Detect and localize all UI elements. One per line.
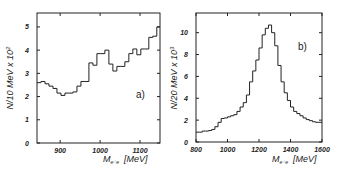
figure: 90010001100012345 a) N/10 MeV x 102 Me⁺e…: [0, 0, 339, 172]
y-axis-title-a: N/10 MeV x 102: [5, 46, 15, 110]
y-tick-label: 0: [25, 140, 29, 147]
plot-frame-b: [196, 13, 322, 142]
y-tick-label: 2: [24, 93, 29, 100]
x-tick-label: 1000: [92, 147, 108, 154]
y-tick-label: 4: [24, 47, 29, 54]
x-tick-label: 1400: [283, 146, 299, 153]
x-tick-label: 900: [54, 147, 66, 154]
panel-label-a: a): [136, 89, 145, 100]
y-tick-label: 10: [180, 29, 188, 36]
plot-frame-a: [37, 13, 160, 143]
x-tick-label: 1200: [251, 146, 267, 153]
x-tick-label: 1600: [314, 146, 330, 153]
x-tick-label: 1000: [220, 146, 236, 153]
y-tick-label: 8: [184, 51, 188, 58]
y-tick-label: 4: [183, 95, 188, 102]
x-tick-label: 1100: [133, 147, 148, 154]
y-tick-label: 5: [25, 23, 29, 30]
x-axis-title-b: Me⁺e⁻[MeV]: [272, 154, 317, 165]
axis-ticks-a: 90010001100012345: [24, 13, 160, 154]
y-tick-label: 0: [184, 139, 188, 146]
y-tick-label: 3: [25, 70, 29, 77]
x-tick-label: 800: [190, 146, 202, 153]
y-tick-label: 1: [25, 116, 29, 123]
histogram-line-a: [37, 27, 160, 95]
panel-label-b: b): [298, 41, 307, 52]
y-axis-title-b: N/20 MeV x 103: [169, 46, 179, 110]
y-tick-label: 6: [184, 73, 188, 80]
y-tick-label: 2: [183, 117, 188, 124]
chart-panel-a: 90010001100012345 a) N/10 MeV x 102 Me⁺e…: [5, 13, 160, 165]
x-axis-title-a: Me⁺e⁻[MeV]: [103, 154, 148, 165]
chart-panel-b: 80010001200140016000246810 b) N/20 MeV x…: [169, 13, 330, 165]
